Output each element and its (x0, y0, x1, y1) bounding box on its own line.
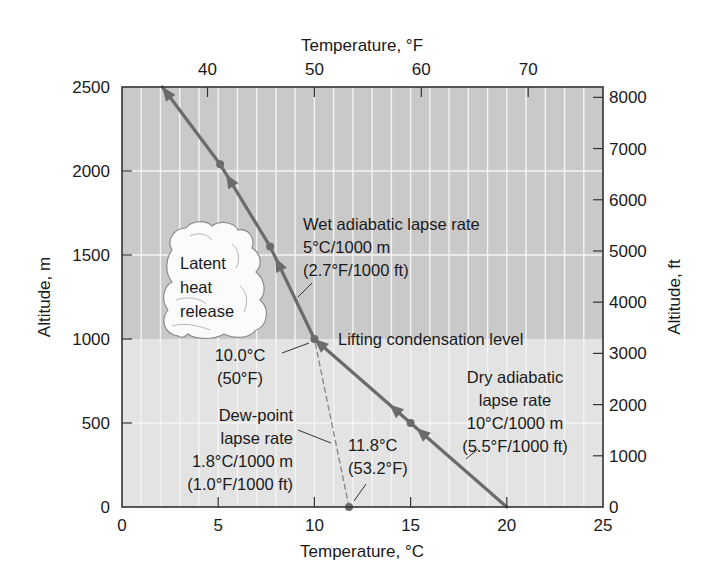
x-axis-title: Temperature, °C (300, 542, 424, 561)
y2-tick-label: 0 (609, 498, 618, 517)
dry-adiabatic-label: 10°C/1000 m (467, 414, 564, 432)
x2-axis-title: Temperature, °F (301, 36, 423, 55)
data-point-marker (407, 419, 415, 427)
x2-tick-label: 50 (305, 60, 324, 79)
data-point-marker (266, 243, 274, 251)
lcl-temperature-label: 10.0°C (215, 346, 266, 364)
lcl-temperature-label: (50°F) (217, 369, 263, 387)
x-tick-label: 0 (117, 516, 126, 535)
lcl-label: Lifting condensation level (338, 330, 523, 348)
x-tick-label: 20 (497, 516, 516, 535)
latent-heat-label: release (180, 302, 234, 320)
dew-point-label: lapse rate (221, 429, 293, 447)
y-tick-label: 2000 (72, 162, 110, 181)
data-point-marker (310, 335, 318, 343)
dew-point-label: Dew-point (219, 406, 294, 424)
y-axis-title: Altitude, m (35, 257, 54, 337)
dry-adiabatic-label: lapse rate (479, 391, 551, 409)
x-tick-label: 25 (594, 516, 613, 535)
y2-tick-label: 5000 (609, 242, 647, 261)
y-tick-label: 0 (101, 498, 110, 517)
y2-tick-label: 1000 (609, 447, 647, 466)
y2-tick-label: 8000 (609, 88, 647, 107)
x-tick-label: 10 (305, 516, 324, 535)
x2-tick-label: 60 (412, 60, 431, 79)
dry-adiabatic-label: Dry adiabatic (467, 368, 563, 386)
data-point-marker (216, 160, 224, 168)
y2-tick-label: 3000 (609, 344, 647, 363)
wet-adiabatic-label: (2.7°F/1000 ft) (303, 261, 409, 279)
wet-adiabatic-label: Wet adiabatic lapse rate (303, 215, 480, 233)
y-tick-label: 2500 (72, 78, 110, 97)
y2-tick-label: 4000 (609, 293, 647, 312)
dry-adiabatic-label: (5.5°F/1000 ft) (462, 437, 568, 455)
y2-axis-title: Altitude, ft (665, 259, 684, 335)
wet-adiabatic-label: 5°C/1000 m (303, 238, 390, 256)
latent-heat-label: heat (180, 278, 213, 296)
latent-heat-label: Latent (180, 254, 226, 272)
dew-point-label: (1.0°F/1000 ft) (187, 475, 293, 493)
y2-tick-label: 6000 (609, 191, 647, 210)
y2-tick-label: 7000 (609, 140, 647, 159)
x-tick-label: 5 (213, 516, 222, 535)
x2-tick-label: 70 (519, 60, 538, 79)
dew-point-label: 1.8°C/1000 m (192, 452, 293, 470)
lapse-rate-chart: 0510152025050010001500200025004050607001… (0, 0, 718, 584)
y-tick-label: 1500 (72, 246, 110, 265)
y-tick-label: 500 (82, 414, 110, 433)
surface-dew-label: (53.2°F) (348, 459, 408, 477)
y-tick-label: 1000 (72, 330, 110, 349)
y2-tick-label: 2000 (609, 396, 647, 415)
x-tick-label: 15 (401, 516, 420, 535)
surface-dew-label: 11.8°C (348, 436, 397, 454)
x2-tick-label: 40 (198, 60, 217, 79)
